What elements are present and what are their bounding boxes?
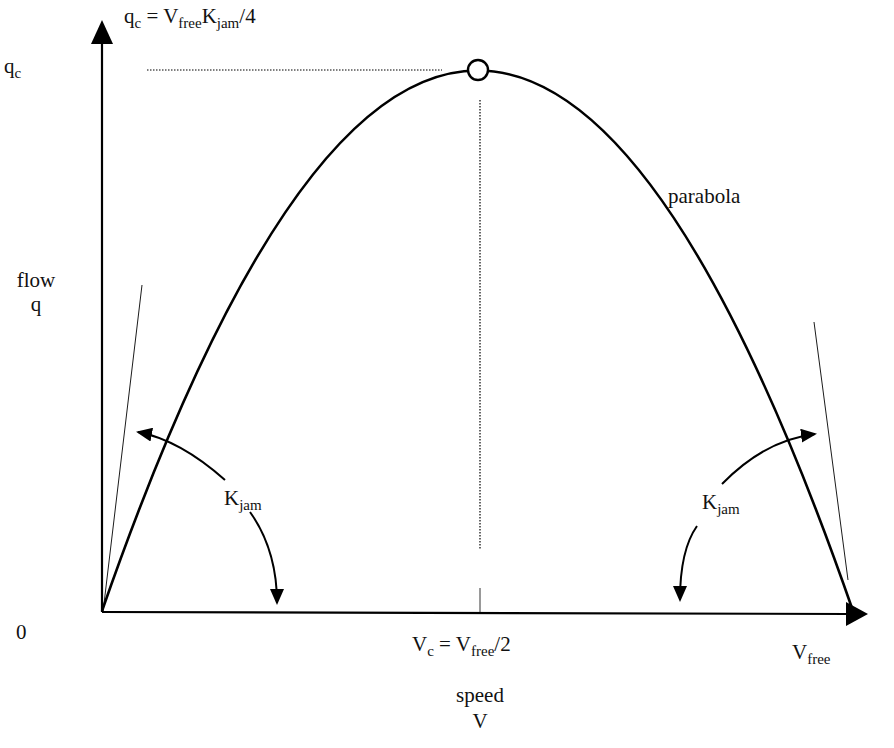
top-formula-label: qc = VfreeKjam/4 (124, 6, 256, 27)
origin-label: 0 (16, 622, 27, 643)
left-kjam-label: Kjam (224, 488, 262, 509)
x-tick-vc-label: Vc = Vfree/2 (412, 634, 511, 655)
y-axis-arrow-icon (91, 20, 113, 44)
x-axis (102, 588, 868, 626)
x-axis-label: speedV (430, 682, 530, 734)
left-tangent-line (103, 285, 142, 612)
right-angle-arrow-upper (722, 434, 815, 484)
x-tick-vfree-label: Vfree (792, 642, 830, 663)
y-tick-qc-label: qc (4, 56, 21, 77)
y-axis-label: flowq (10, 268, 62, 316)
peak-point-marker (468, 60, 488, 80)
parabola-label: parabola (668, 186, 740, 207)
right-angle-arrow-lower (680, 526, 697, 600)
right-kjam-label: Kjam (702, 492, 740, 513)
y-axis (91, 20, 113, 612)
left-angle-arrow-upper (138, 432, 225, 480)
left-angle-arrow-lower (250, 512, 277, 603)
parabola-curve (102, 71, 853, 612)
right-tangent-line (814, 322, 848, 580)
x-axis-arrow-icon (846, 602, 868, 626)
